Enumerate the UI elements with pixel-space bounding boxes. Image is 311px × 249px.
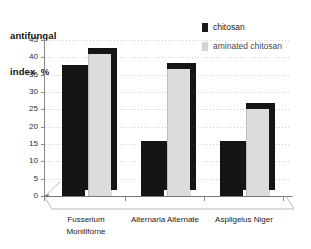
bar-top-face [141, 141, 164, 147]
y-tick-mark [41, 75, 44, 76]
y-tick-mark [41, 179, 44, 180]
x-tick-mark [204, 197, 205, 201]
bar-front-face [62, 71, 85, 196]
y-tick-label: 5 [22, 174, 38, 183]
y-tick-mark [41, 109, 44, 110]
gridline [45, 57, 291, 58]
bar-side-face [111, 48, 117, 190]
y-tick-label: 20 [22, 122, 38, 131]
bar-front-face [141, 147, 164, 196]
chart-root: antifungal index % chitosan aminated chi… [0, 0, 311, 249]
bar-top-face [220, 141, 243, 147]
x-axis-label-line: Moniliforne [36, 226, 136, 238]
y-tick-mark [41, 144, 44, 145]
bar-column [246, 109, 269, 196]
bar-column [220, 147, 243, 196]
x-tick-mark [125, 197, 126, 201]
floor-plane [44, 196, 294, 210]
y-tick-mark [41, 57, 44, 58]
y-tick-mark [41, 40, 44, 41]
x-tick-mark [283, 197, 284, 201]
bar-front-face [220, 147, 243, 196]
bar-top-face [88, 48, 111, 54]
bar-column [88, 54, 111, 196]
y-tick-label: 25 [22, 104, 38, 113]
bar-side-face [269, 103, 275, 190]
bar-column [62, 71, 85, 196]
y-tick-label: 40 [22, 52, 38, 61]
bar-column [167, 69, 190, 196]
y-tick-mark [41, 127, 44, 128]
bar-front-face [246, 109, 270, 196]
y-tick-label: 45 [22, 35, 38, 44]
y-tick-label: 15 [22, 139, 38, 148]
y-axis-line [44, 40, 45, 197]
bar-front-face [167, 69, 191, 196]
bar-column [141, 147, 164, 196]
bar-top-face [246, 103, 269, 109]
x-tick-mark [44, 197, 45, 201]
bar-top-face [167, 63, 190, 69]
y-tick-label: 10 [22, 156, 38, 165]
y-tick-label: 35 [22, 70, 38, 79]
bar-top-corner [190, 63, 196, 69]
y-tick-label: 30 [22, 87, 38, 96]
y-tick-mark [41, 161, 44, 162]
bar-side-face [190, 63, 196, 190]
bar-front-face [88, 54, 112, 196]
bar-top-corner [269, 103, 275, 109]
y-tick-mark [41, 92, 44, 93]
x-axis-label: Aspllgelus Niger [194, 214, 294, 226]
plot-area: 454035302520151050 [0, 0, 311, 249]
bar-top-face [62, 65, 85, 71]
bar-top-corner [111, 48, 117, 54]
gridline [45, 40, 291, 41]
y-tick-label: 0 [22, 191, 38, 200]
x-axis-label-line: Aspllgelus Niger [194, 214, 294, 226]
